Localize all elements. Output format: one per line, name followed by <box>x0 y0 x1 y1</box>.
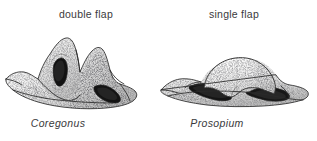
panel-coregonus: double flap <box>0 0 160 141</box>
figure-canvas: double flap <box>0 0 317 141</box>
label-single-flap: single flap <box>154 9 314 20</box>
panel-prosopium: single flap <box>157 0 317 141</box>
illustration-coregonus <box>0 24 160 116</box>
illustration-prosopium <box>157 24 317 116</box>
label-double-flap: double flap <box>0 9 166 20</box>
label-prosopium: Prosopium <box>137 118 297 129</box>
label-coregonus: Coregonus <box>0 118 138 129</box>
